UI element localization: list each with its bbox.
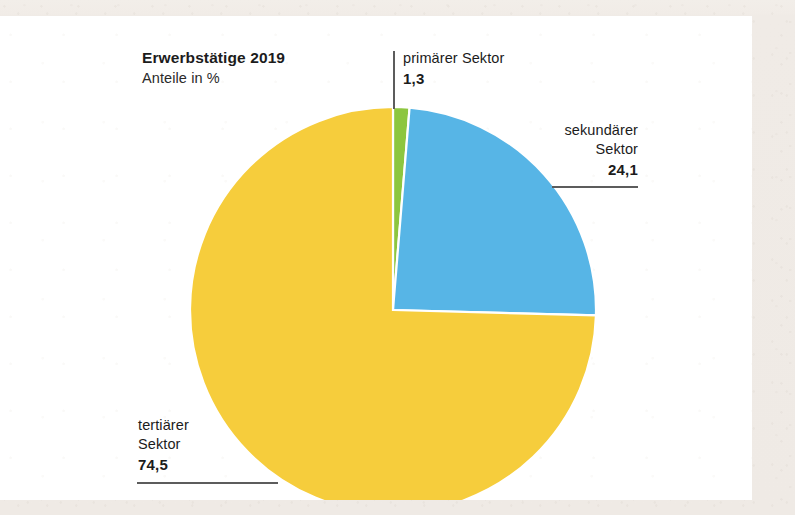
callout-sekundaerer-sektor-label-line1: sekundärer xyxy=(472,121,638,140)
callout-tertiaerer-sektor: tertiärer Sektor 74,5 xyxy=(138,416,189,474)
leader-line-sekundaerer-sektor xyxy=(552,186,638,188)
callout-sekundaerer-sektor-value: 24,1 xyxy=(472,160,638,180)
callout-primaerer-sektor: primärer Sektor 1,3 xyxy=(403,49,504,88)
callout-primaerer-sektor-value: 1,3 xyxy=(403,69,504,89)
pie-chart: primärer Sektor 1,3sekundärer Sektor 24,… xyxy=(0,16,752,500)
leader-line-tertiaerer-sektor xyxy=(137,482,278,484)
callout-sekundaerer-sektor-label-line2: Sektor xyxy=(472,140,638,159)
page-title: Erwerbstätige 2019 xyxy=(142,48,285,68)
leader-line-primaerer-sektor xyxy=(393,51,395,109)
callout-tertiaerer-sektor-label-line2: Sektor xyxy=(138,435,189,454)
callout-primaerer-sektor-label: primärer Sektor xyxy=(403,49,504,68)
callout-tertiaerer-sektor-value: 74,5 xyxy=(138,455,189,475)
chart-title-block: Erwerbstätige 2019 Anteile in % xyxy=(142,48,285,89)
chart-subtitle: Anteile in % xyxy=(142,69,285,88)
callout-sekundaerer-sektor: sekundärer Sektor 24,1 xyxy=(472,121,638,179)
pie-chart-svg: primärer Sektor 1,3sekundärer Sektor 24,… xyxy=(0,16,752,500)
chart-card: Erwerbstätige 2019 Anteile in % primärer… xyxy=(0,16,752,500)
callout-tertiaerer-sektor-label-line1: tertiärer xyxy=(138,416,189,435)
